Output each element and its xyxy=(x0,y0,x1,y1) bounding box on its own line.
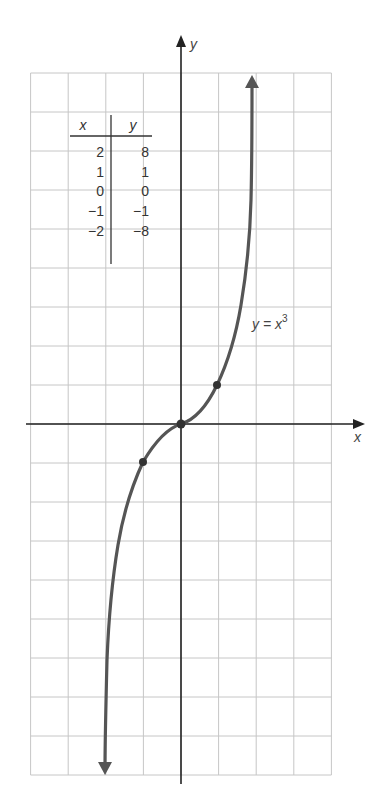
y-axis-arrow-icon xyxy=(176,35,186,47)
table-cell-x: 0 xyxy=(96,183,104,199)
point-origin xyxy=(177,420,186,429)
table-cell-y: 8 xyxy=(141,144,149,160)
x-axis xyxy=(26,419,365,429)
x-axis-label: x xyxy=(353,429,362,445)
table-header-x: x xyxy=(79,117,88,133)
point-neg1-neg1 xyxy=(139,458,147,466)
table-cell-y: 0 xyxy=(141,183,149,199)
x-axis-arrow-icon xyxy=(353,419,365,429)
curve-label-main: y = x xyxy=(251,316,283,332)
curve-label-exponent: 3 xyxy=(282,313,288,324)
table-cell-x: 1 xyxy=(96,164,104,180)
table-cell-x: −2 xyxy=(88,223,104,239)
table-cell-x: −1 xyxy=(88,203,104,219)
table-cell-x: 2 xyxy=(96,144,104,160)
curve-arrow-down-icon xyxy=(98,762,112,775)
y-axis xyxy=(176,35,186,784)
y-axis-label: y xyxy=(189,36,198,52)
curve-label: y = x3 xyxy=(251,313,288,332)
curve-arrow-up-icon xyxy=(245,75,259,88)
table-cell-y: −1 xyxy=(133,203,149,219)
table-rows: 281100−1−1−2−8 xyxy=(88,144,149,239)
cubic-function-graph: x y y = x3 x y 281100−1−1−2−8 xyxy=(0,0,367,812)
point-1-1 xyxy=(213,381,221,389)
table-header-y: y xyxy=(129,117,138,133)
table-cell-y: 1 xyxy=(141,164,149,180)
table-cell-y: −8 xyxy=(133,223,149,239)
